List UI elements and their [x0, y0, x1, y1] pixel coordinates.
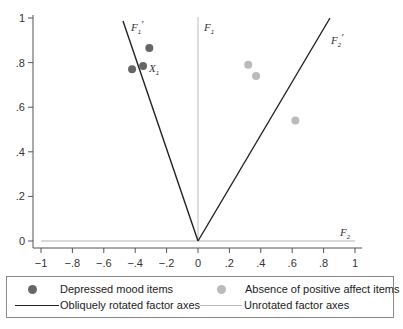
y-tick-label: .6: [16, 101, 25, 113]
y-tick-label: .4: [16, 146, 25, 158]
legend-item-absence-positive-affect: Absence of positive affect items: [217, 283, 400, 295]
dark-line-icon: [15, 305, 59, 306]
x-tick-label: .6: [288, 257, 297, 269]
x-tick-label: −.4: [127, 257, 143, 269]
x-tick-label: −.8: [65, 257, 81, 269]
rotated-axis-f1-prime: [123, 21, 198, 241]
legend-label: Absence of positive affect items: [245, 283, 400, 295]
y-ticks: 0.2.4.6.81: [16, 12, 33, 247]
legend-label: Unrotated factor axes: [244, 299, 349, 311]
x-tick-label: −.2: [159, 257, 175, 269]
legend-item-oblique-axes: Obliquely rotated factor axes: [15, 299, 200, 311]
data-point: [145, 44, 153, 52]
x-tick-label: −1: [35, 257, 48, 269]
y-tick-label: .8: [16, 57, 25, 69]
x-tick-label: −.6: [96, 257, 112, 269]
x-tick-label: .2: [225, 257, 234, 269]
label-x1: X1: [148, 62, 159, 76]
x-tick-label: .8: [319, 257, 328, 269]
label-f2: F2: [339, 226, 351, 240]
y-tick-label: .2: [16, 190, 25, 202]
light-line-icon: [200, 305, 242, 306]
legend-label: Depressed mood items: [60, 283, 173, 295]
label-f2-prime: F2′: [330, 31, 344, 48]
label-f1-prime: F1′: [130, 18, 144, 35]
legend-item-depressed-mood: Depressed mood items: [28, 283, 173, 295]
data-point: [252, 72, 260, 80]
data-point: [139, 62, 147, 70]
y-tick-label: 0: [19, 235, 25, 247]
data-point: [244, 61, 252, 69]
data-point: [128, 65, 136, 73]
y-tick-label: 1: [19, 12, 25, 24]
x-tick-label: 1: [352, 257, 358, 269]
legend-item-unrotated-axes: Unrotated factor axes: [200, 299, 349, 311]
data-point: [291, 117, 299, 125]
label-f1: F1: [203, 21, 214, 35]
legend: Depressed mood items Absence of positive…: [6, 276, 394, 318]
x-tick-label: .4: [256, 257, 265, 269]
dark-dot-icon: [28, 285, 37, 294]
light-dot-icon: [217, 285, 226, 294]
x-ticks: −1−.8−.6−.4−.20.2.4.6.81: [35, 248, 358, 269]
legend-label: Obliquely rotated factor axes: [60, 299, 200, 311]
rotated-axis-f2-prime: [198, 18, 330, 241]
x-tick-label: 0: [195, 257, 201, 269]
